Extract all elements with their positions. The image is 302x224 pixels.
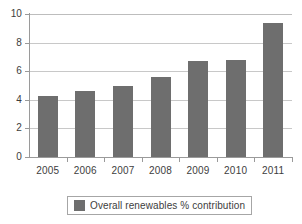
gridline bbox=[29, 14, 292, 15]
y-tick-mark bbox=[25, 71, 30, 72]
x-tick-mark bbox=[292, 157, 293, 162]
x-tick-mark bbox=[179, 157, 180, 162]
bar-chart: 0246810 2005200620072008200920102011 Ove… bbox=[0, 0, 302, 224]
y-tick-label: 6 bbox=[0, 66, 22, 76]
y-tick-label: 10 bbox=[0, 9, 22, 19]
y-tick-label: 2 bbox=[0, 123, 22, 133]
legend-label: Overall renewables % contribution bbox=[90, 200, 245, 211]
bar bbox=[151, 77, 171, 157]
x-tick-mark bbox=[67, 157, 68, 162]
x-tick-label: 2005 bbox=[28, 165, 68, 176]
x-tick-label: 2007 bbox=[103, 165, 143, 176]
bar bbox=[188, 61, 208, 157]
y-tick-mark bbox=[25, 157, 30, 158]
x-axis-line bbox=[29, 157, 292, 158]
legend-swatch-icon bbox=[74, 200, 85, 211]
x-tick-label: 2010 bbox=[216, 165, 256, 176]
bar bbox=[263, 23, 283, 157]
x-tick-mark bbox=[104, 157, 105, 162]
y-tick-mark bbox=[25, 100, 30, 101]
y-tick-label: 8 bbox=[0, 38, 22, 48]
gridline bbox=[29, 71, 292, 72]
y-tick-mark bbox=[25, 43, 30, 44]
x-tick-mark bbox=[217, 157, 218, 162]
x-tick-label: 2011 bbox=[253, 165, 293, 176]
bar bbox=[75, 91, 95, 157]
chart-legend: Overall renewables % contribution bbox=[67, 196, 252, 215]
plot-area bbox=[29, 14, 292, 157]
x-tick-mark bbox=[254, 157, 255, 162]
bar bbox=[113, 86, 133, 158]
x-tick-label: 2008 bbox=[141, 165, 181, 176]
x-tick-label: 2009 bbox=[178, 165, 218, 176]
x-tick-mark bbox=[142, 157, 143, 162]
gridline bbox=[29, 43, 292, 44]
y-tick-mark bbox=[25, 128, 30, 129]
bar bbox=[226, 60, 246, 157]
x-tick-label: 2006 bbox=[65, 165, 105, 176]
y-axis-line bbox=[29, 13, 30, 158]
y-tick-label: 0 bbox=[0, 152, 22, 162]
y-tick-mark bbox=[25, 14, 30, 15]
y-tick-label: 4 bbox=[0, 95, 22, 105]
bar bbox=[38, 96, 58, 157]
